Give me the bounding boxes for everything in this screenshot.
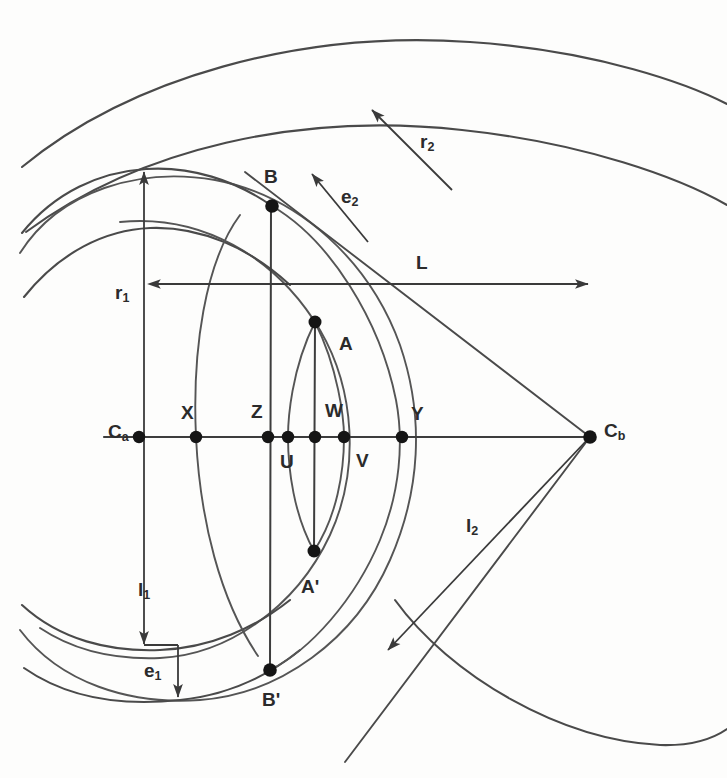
label-L: L (416, 252, 428, 273)
ray-cb-to-b (245, 172, 590, 437)
dimline-l2 (388, 439, 588, 650)
label-Bprime: B' (262, 689, 280, 710)
arc-x-small (195, 215, 258, 656)
label-Ca: Ca (108, 421, 130, 444)
dimension-r2 (372, 110, 452, 190)
arc-left-open (22, 169, 300, 702)
dot-A (309, 316, 322, 329)
dimline-r2 (372, 110, 452, 190)
arc-cb-lower-outer (395, 600, 727, 745)
arc-cb-outer (22, 40, 727, 167)
label-V: V (356, 450, 369, 471)
label-A: A (339, 333, 353, 354)
text-labels: Ca Cb X Z U W V Y B B' A A' r1 l1 (108, 131, 626, 710)
label-Y: Y (411, 403, 424, 424)
dot-B (265, 199, 279, 213)
dimension-l2 (388, 439, 588, 650)
label-e1: e1 (144, 660, 162, 683)
label-r1: r1 (115, 282, 129, 305)
label-Z: Z (251, 401, 263, 422)
label-l2: l2 (466, 515, 478, 538)
label-U: U (280, 451, 294, 472)
geometry-figure: Ca Cb X Z U W V Y B B' A A' r1 l1 (0, 0, 727, 778)
dot-Y (396, 431, 408, 443)
arc-family-cb (22, 40, 727, 232)
dot-W (309, 431, 321, 443)
dot-Ca (133, 431, 145, 443)
dot-X (190, 431, 202, 443)
label-r2: r2 (420, 131, 434, 154)
dot-Z (262, 431, 274, 443)
label-B: B (264, 166, 278, 187)
label-Aprime: A' (301, 576, 319, 597)
label-X: X (181, 402, 194, 423)
ray-cb-to-bprime (345, 437, 590, 762)
dot-V (338, 431, 350, 443)
dot-U (282, 431, 294, 443)
dot-Aprime (308, 545, 321, 558)
label-Cb: Cb (604, 420, 626, 443)
arc-cb-inner (26, 125, 727, 232)
label-e2: e2 (341, 186, 359, 209)
arc-left-lower-inner (24, 228, 290, 297)
dot-Cb (583, 430, 597, 444)
arc-family-cb-lower (395, 600, 727, 745)
dot-Bprime (263, 663, 277, 677)
label-W: W (325, 400, 343, 421)
diagram-canvas: Ca Cb X Z U W V Y B B' A A' r1 l1 (0, 0, 727, 778)
